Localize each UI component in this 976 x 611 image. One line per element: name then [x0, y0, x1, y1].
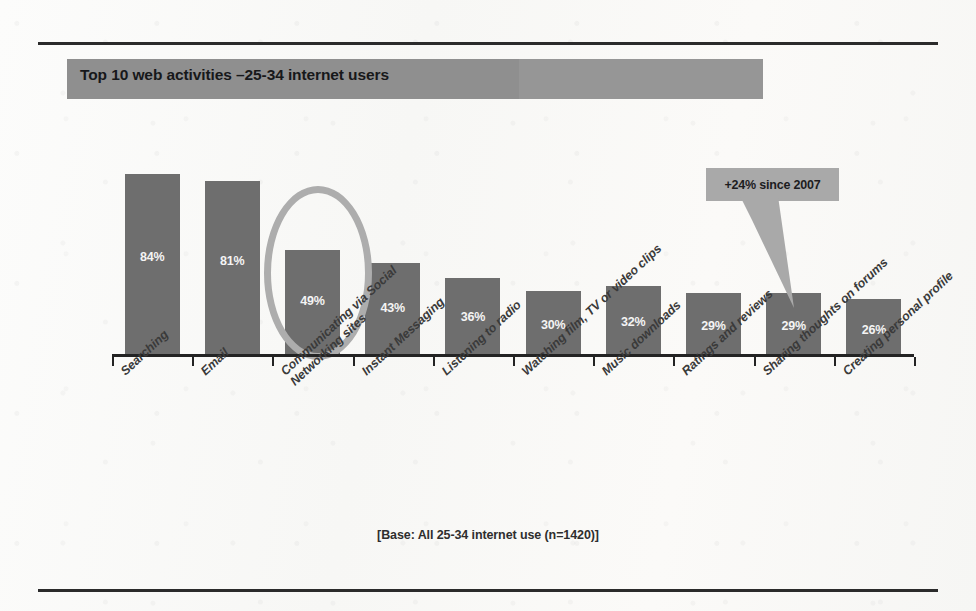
- x-axis-end-tick: [914, 357, 916, 366]
- x-axis-tick: [834, 357, 836, 366]
- x-axis-tick: [673, 357, 675, 366]
- base-note: [Base: All 25-34 internet use (n=1420)]: [0, 528, 976, 542]
- x-axis-tick: [754, 357, 756, 366]
- bottom-divider-rule: [38, 589, 938, 592]
- bar-value-label: 84%: [125, 250, 180, 264]
- top-divider-rule: [38, 42, 938, 45]
- page-title: Top 10 web activities –25-34 internet us…: [80, 66, 389, 84]
- x-axis-tick: [112, 357, 114, 366]
- x-axis-tick: [353, 357, 355, 366]
- x-axis-tick: [513, 357, 515, 366]
- title-band-highlight: [519, 59, 763, 99]
- bar: 84%: [125, 174, 180, 355]
- bar: 81%: [205, 181, 260, 355]
- callout-label: +24% since 2007: [706, 168, 839, 201]
- x-axis-tick: [593, 357, 595, 366]
- bar-value-label: 81%: [205, 254, 260, 268]
- x-axis-tick: [272, 357, 274, 366]
- x-axis-tick: [192, 357, 194, 366]
- x-axis-tick: [433, 357, 435, 366]
